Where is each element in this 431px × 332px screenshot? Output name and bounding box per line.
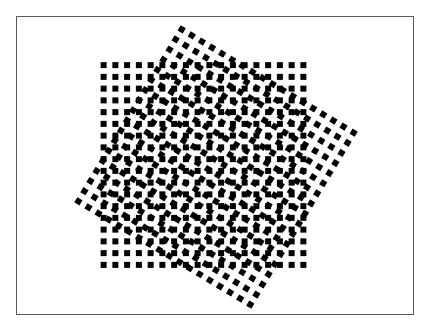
grid-dot: [183, 238, 189, 244]
grid-dot: [325, 169, 333, 177]
grid-dot: [226, 288, 234, 296]
grid-dot: [101, 191, 107, 197]
grid-dot: [112, 215, 118, 221]
grid-dot: [300, 86, 306, 92]
grid-dot: [183, 215, 189, 221]
grid-dot: [148, 62, 154, 68]
grid-dot: [208, 43, 216, 51]
grid-dot: [101, 62, 107, 68]
grid-dot: [92, 167, 100, 175]
grid-dot: [101, 133, 107, 139]
grid-dot: [289, 250, 295, 256]
grid-dot: [319, 110, 327, 118]
grid-dot: [112, 86, 118, 92]
grid-dot: [136, 86, 142, 92]
grid-dot: [252, 290, 260, 298]
grid-dot: [309, 173, 317, 181]
grid-dot: [300, 62, 306, 68]
grid-dot: [195, 97, 201, 103]
grid-dot: [101, 250, 107, 256]
grid-dot: [136, 74, 142, 80]
grid-dot: [195, 238, 201, 244]
grid-dot: [84, 203, 92, 211]
grid-dot: [300, 133, 306, 139]
grid-dot: [300, 250, 306, 256]
grid-dot: [331, 159, 339, 167]
grid-dot: [136, 227, 142, 233]
grid-dot: [289, 74, 295, 80]
grid-dot: [265, 262, 271, 268]
grid-dot: [253, 62, 259, 68]
grid-dot: [176, 52, 184, 60]
grid-dot: [327, 143, 335, 151]
grid-dot: [90, 193, 98, 201]
grid-dot: [337, 149, 345, 157]
grid-dot: [323, 127, 331, 135]
grid-dot: [313, 189, 321, 197]
grid-dot: [321, 153, 329, 161]
grid-dot: [329, 116, 337, 124]
grid-dot: [178, 25, 186, 33]
grid-dot: [80, 187, 88, 195]
grid-dot: [258, 280, 266, 288]
grid-dot: [300, 238, 306, 244]
grid-dot: [124, 238, 130, 244]
grid-dot: [183, 121, 189, 127]
grid-dot: [101, 144, 107, 150]
grid-dot: [112, 144, 118, 150]
grid-dot: [112, 62, 118, 68]
grid-dot: [218, 250, 224, 256]
grid-dot: [300, 74, 306, 80]
grid-dot: [315, 163, 323, 171]
grid-dot: [101, 238, 107, 244]
grid-dot: [124, 97, 130, 103]
grid-dot: [265, 168, 271, 174]
grid-dot: [232, 278, 240, 286]
grid-dot: [311, 147, 319, 155]
grid-dot: [136, 133, 142, 139]
grid-dot: [246, 301, 254, 309]
grid-dot: [124, 109, 130, 115]
grid-dot: [148, 156, 154, 162]
grid-dot: [242, 97, 248, 103]
grid-dot: [101, 121, 107, 127]
grid-dot: [101, 86, 107, 92]
grid-dot: [124, 74, 130, 80]
grid-dot: [300, 109, 306, 115]
grid-dot: [253, 215, 259, 221]
grid-dot: [265, 144, 271, 150]
grid-dot: [165, 45, 173, 53]
grid-dot: [112, 121, 118, 127]
grid-dot: [124, 180, 130, 186]
grid-dot: [218, 180, 224, 186]
grid-dot: [112, 97, 118, 103]
grid-dot: [307, 131, 315, 139]
grid-dot: [171, 121, 177, 127]
grid-dot: [218, 86, 224, 92]
grid-dot: [101, 97, 107, 103]
grid-dot: [206, 215, 212, 221]
grid-dot: [148, 109, 154, 115]
grid-dot: [86, 177, 94, 185]
grid-dot: [159, 262, 165, 268]
grid-dot: [136, 250, 142, 256]
grid-dot: [171, 35, 179, 43]
grid-dot: [171, 97, 177, 103]
grid-dot: [112, 250, 118, 256]
grid-dot: [124, 86, 130, 92]
grid-dot: [216, 282, 224, 290]
grid-dot: [202, 54, 210, 62]
grid-dot: [265, 238, 271, 244]
grid-dot: [101, 227, 107, 233]
grid-dot: [309, 104, 317, 112]
grid-dot: [248, 274, 256, 282]
grid-dot: [206, 62, 212, 68]
grid-dot: [300, 262, 306, 268]
grid-dot: [206, 133, 212, 139]
grid-dot: [148, 262, 154, 268]
grid-dot: [230, 133, 236, 139]
grid-dot: [289, 86, 295, 92]
grid-dot: [242, 250, 248, 256]
grid-dot: [101, 74, 107, 80]
moire-pattern-canvas: [0, 0, 431, 332]
